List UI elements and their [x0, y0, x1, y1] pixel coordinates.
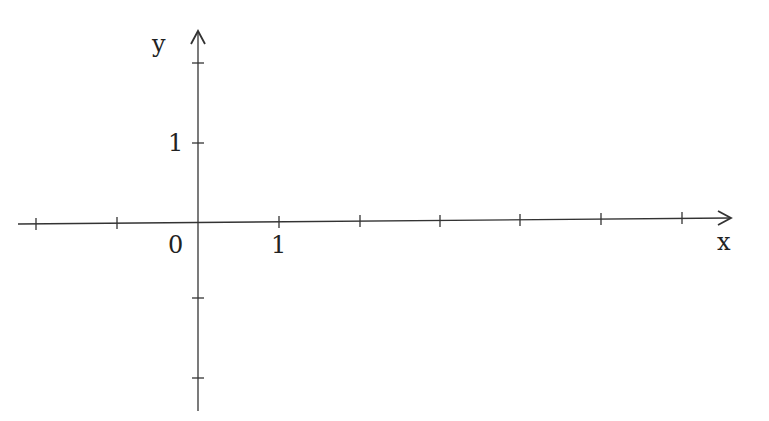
x-unit-label: 1 [271, 231, 286, 259]
x-axis [18, 218, 730, 224]
origin-label: 0 [168, 231, 183, 259]
x-axis-label: x [717, 228, 731, 256]
y-unit-label: 1 [168, 129, 183, 157]
y-axis-label: y [151, 30, 166, 58]
coordinate-plane: y x 0 1 1 [0, 0, 769, 421]
